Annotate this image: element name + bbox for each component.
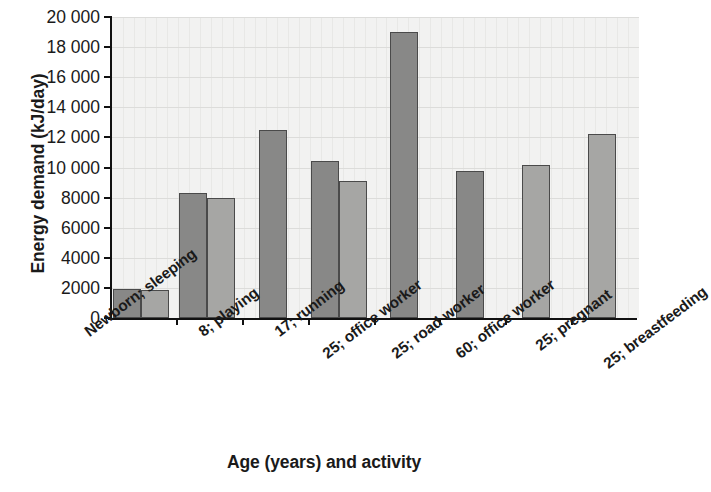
bar (339, 181, 367, 318)
y-axis-tick (104, 167, 112, 169)
y-axis-tick (104, 76, 112, 78)
bar (259, 130, 287, 318)
y-axis-tick (104, 16, 112, 18)
y-axis-tick-label: 8000 (0, 187, 100, 208)
x-axis-tick (242, 318, 244, 325)
y-axis-tick (104, 227, 112, 229)
gridline (112, 47, 639, 48)
x-axis-title: Age (years) and activity (0, 452, 648, 473)
gridline (112, 168, 639, 169)
y-axis-tick-labels: 20 00018 00016 00014 00012 00010 0008000… (0, 0, 100, 492)
y-axis-tick (104, 257, 112, 259)
plot-area (110, 17, 639, 318)
y-axis-tick-label: 10 000 (0, 157, 100, 178)
y-axis-tick-label: 4000 (0, 247, 100, 268)
x-axis-tick (176, 318, 178, 325)
y-axis-tick-label: 2000 (0, 277, 100, 298)
gridline (112, 17, 639, 18)
y-axis-tick-label: 6000 (0, 217, 100, 238)
y-axis-tick (104, 46, 112, 48)
y-axis-tick (104, 287, 112, 289)
y-axis-tick-label: 16 000 (0, 67, 100, 88)
gridline (112, 77, 639, 78)
y-axis-tick-label: 12 000 (0, 127, 100, 148)
y-axis-tick-label: 14 000 (0, 97, 100, 118)
gridline (112, 107, 639, 108)
y-axis-tick (104, 136, 112, 138)
y-axis-tick (104, 197, 112, 199)
y-axis-tick-label: 20 000 (0, 7, 100, 28)
y-axis-tick (104, 106, 112, 108)
y-axis-tick-label: 18 000 (0, 37, 100, 58)
gridline (112, 137, 639, 138)
